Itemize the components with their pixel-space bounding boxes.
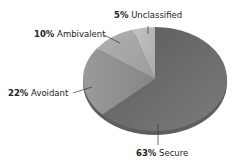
label-ambivalent: 10% Ambivalent	[34, 29, 105, 39]
label-avoidant: 22% Avoidant	[8, 88, 68, 98]
label-secure: 63% Secure	[136, 148, 188, 158]
label-unclassified: 5% Unclassified	[114, 10, 182, 20]
pie-chart	[0, 0, 234, 161]
